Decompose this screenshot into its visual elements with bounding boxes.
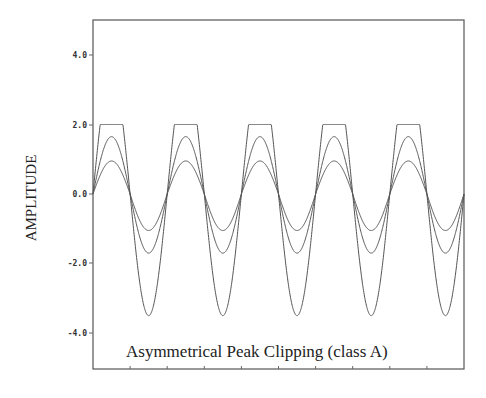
chart-title: Asymmetrical Peak Clipping (class A) (126, 342, 388, 361)
y-tick-label: -2.0 (68, 259, 87, 268)
chart-canvas: 4.0 2.0 0.0 -2.0 -4.0 AMPLITUDE Asymmetr… (0, 0, 486, 398)
y-tick-0: 0.0 (73, 190, 93, 199)
y-tick-label: 2.0 (73, 121, 88, 130)
y-tick-label: 4.0 (73, 51, 88, 60)
waveform-clipped (93, 125, 464, 316)
y-tick-2: 2.0 (73, 121, 93, 130)
y-tick-neg2: -2.0 (68, 259, 93, 268)
y-tick-label: 0.0 (73, 190, 88, 199)
y-axis-label: AMPLITUDE (23, 155, 39, 242)
y-tick-label: -4.0 (68, 329, 87, 338)
y-axis-ticks: 4.0 2.0 0.0 -2.0 -4.0 (68, 51, 93, 338)
y-tick-neg4: -4.0 (68, 329, 93, 338)
waveform-curves (93, 125, 464, 316)
y-tick-4: 4.0 (73, 51, 93, 60)
